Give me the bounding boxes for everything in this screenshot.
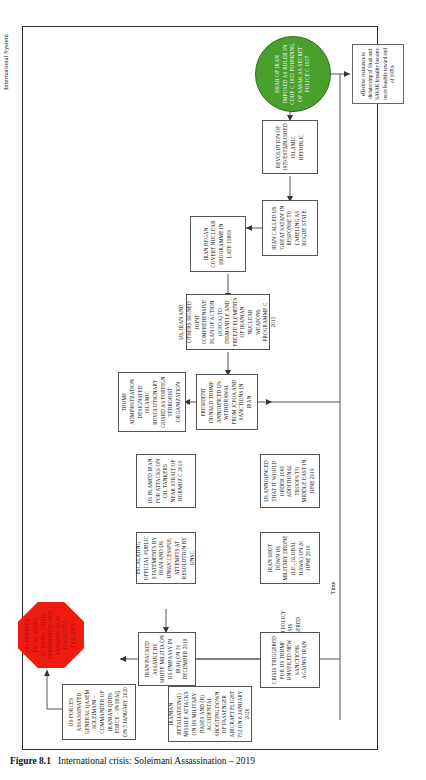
node-escalating-statements-label: Escalating official public statements by… [135,535,196,581]
node-oil-tankers-label: US blamed Iran for attacks on oil tanker… [147,457,185,505]
node-great-satan-label: Iran called US 'Great Satan' in response… [271,203,309,253]
node-troops-middle-east-label: US announced that it would order 1000 ad… [263,457,316,505]
figure-title: International crisis: Soleimani Assassin… [58,756,255,766]
node-jcpoa-signed[interactable]: US, Iran and others signed Joint Compreh… [186,294,270,350]
node-start-shah-label: Shah of Iran imposed as ruler in coup c … [274,43,312,105]
node-iranian-retaliation[interactable]: Iranian retaliation (i) missile attacks … [168,686,252,742]
figure-number: Figure 8.1 [10,756,51,766]
source-label: International System [2,34,9,90]
node-troops-middle-east[interactable]: US announced that it would order 1000 ad… [260,454,320,508]
node-covert-nuclear[interactable]: Iran began covert nuclear programme in l… [190,216,246,272]
node-revolution-1979[interactable]: Revolution of 1979 established Islamic R… [262,120,318,174]
node-drone-shot-down-label: Iran shot down US military drone (i.e., … [267,535,313,581]
node-revolution-1979-label: Revolution of 1979 established Islamic R… [275,123,306,171]
node-drone-shot-down[interactable]: Iran shot down US military drone (i.e., … [260,532,320,584]
node-irgc-terrorist[interactable]: Trump administration designated Islamic … [118,372,186,432]
node-covert-nuclear-label: Iran began covert nuclear programme in l… [203,219,234,269]
node-trump-withdrawal[interactable]: President Donald Trump announced US with… [196,374,258,430]
figure-caption: Figure 8.1 International crisis: Soleima… [10,756,416,766]
node-note-resistance-label: effective resistance to dictatorship of … [360,47,397,101]
time-axis-label: Time [330,582,336,594]
node-stop-crisis-terminated[interactable]: No further escalatory actions: crisis te… [18,602,84,668]
node-crisis-sanctions[interactable]: Crisis triggered for US Trump unveiled n… [260,632,320,688]
node-irgc-terrorist-label: Trump administration designated Islamic … [121,375,182,429]
node-note-resistance: effective resistance to dictatorship of … [352,44,404,104]
node-soleimani-killed-label: US forces assassinated General Qasem Sol… [68,687,129,737]
node-great-satan[interactable]: Iran called US 'Great Satan' in response… [262,200,318,256]
node-trump-withdrawal-label: President Donald Trump announced US with… [200,377,253,427]
figure-canvas: International System [0,0,426,780]
node-embassy-assault-label: Iran backed assault by Shiite militia on… [144,635,190,683]
node-embassy-assault[interactable]: Iran backed assault by Shiite militia on… [138,632,196,686]
node-stop-crisis-terminated-label: No further escalatory actions: crisis te… [24,610,77,660]
node-soleimani-killed[interactable]: US forces assassinated General Qasem Sol… [62,684,136,740]
node-start-shah[interactable]: Shah of Iran imposed as ruler in coup c … [255,36,331,112]
node-oil-tankers[interactable]: US blamed Iran for attacks on oil tanker… [136,454,196,508]
node-crisis-sanctions-label: Crisis triggered for US Trump unveiled n… [271,635,309,685]
node-iranian-retaliation-label: Iranian retaliation (i) missile attacks … [168,689,252,739]
node-escalating-statements[interactable]: Escalating official public statements by… [136,532,196,584]
node-jcpoa-signed-label: US, Iran and others signed Joint Compreh… [178,297,277,347]
